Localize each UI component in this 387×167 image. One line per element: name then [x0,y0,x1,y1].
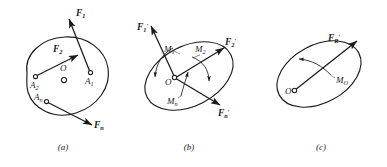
label-F2: F2 [52,44,63,55]
label-A1: A1 [84,76,94,87]
label-F2-prime: F2′ [224,37,237,49]
label-Mn: Mn [166,96,178,107]
label-F1-prime: F1′ [136,22,149,34]
application-point-An [44,99,48,103]
force-vector-F1 [69,19,90,72]
panel-b-forces-and-couples-at-O: F1′ F2′ Fn′ M1 M2 Mn O (b) [126,0,252,167]
leader-M2 [193,55,200,58]
leader-Mn [178,96,181,98]
moment-arc-MO [299,59,331,75]
label-Fn: Fn [93,120,104,131]
moment-arc-M2 [192,57,209,81]
label-O-panel-a: O [60,63,67,73]
label-O-panel-c: O [285,86,292,96]
caption-b: (b) [184,142,195,152]
figure-root: F1 F2 Fn A1 A2 An O (a) [0,0,387,167]
application-point-A2 [33,74,37,78]
reference-point-O [172,75,176,79]
rigid-body-outline [27,37,109,115]
leader-MO [331,75,335,78]
caption-a: (a) [58,142,69,152]
label-An: An [33,92,43,103]
force-vector-F2 [36,55,78,76]
moment-arc-Mn [181,72,188,96]
reference-point-O [61,77,66,82]
panel-a-original-force-system: F1 F2 Fn A1 A2 An O (a) [0,0,126,167]
force-vector-Fn [47,102,92,125]
label-F1: F1 [75,8,86,19]
caption-c: (c) [316,142,326,152]
label-FR-prime: FR′ [327,33,341,45]
application-point-A1 [88,70,92,74]
reference-point-O [292,88,296,92]
label-MO: MO [335,75,349,86]
label-M1: M1 [163,44,175,55]
panel-c-resultant-force-and-couple: FR′ MO O (c) [252,0,387,167]
label-O-panel-b: O [165,77,172,87]
label-Fn-prime: Fn′ [217,108,230,120]
label-A2: A2 [29,80,40,91]
label-M2: M2 [194,44,207,55]
